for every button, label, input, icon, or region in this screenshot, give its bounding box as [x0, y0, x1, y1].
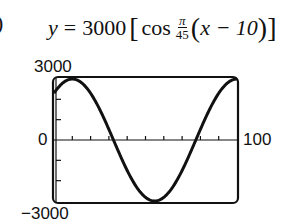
- plot-area: [0, 0, 293, 224]
